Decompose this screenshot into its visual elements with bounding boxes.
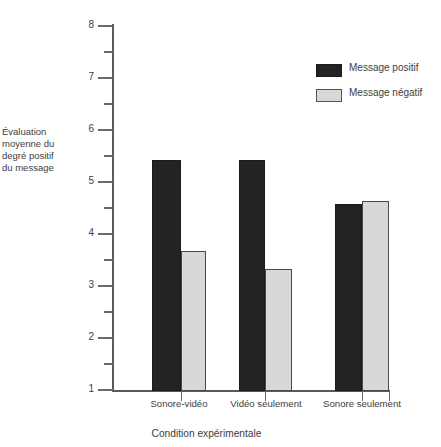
category-label: Sonore seulement bbox=[302, 398, 422, 409]
bar-message-négatif bbox=[265, 269, 292, 391]
bar-message-positif bbox=[152, 160, 181, 391]
legend-label: Message négatif bbox=[349, 87, 422, 98]
legend-swatch-pos bbox=[316, 64, 342, 77]
bar-message-négatif bbox=[181, 251, 206, 391]
x-axis-title: Condition expérimentale bbox=[0, 428, 441, 439]
chart-legend: Message positifMessage négatif bbox=[316, 62, 441, 110]
bar-message-négatif bbox=[362, 201, 389, 391]
x-axis-category-labels: Sonore-vidéoVidéo seulementSonore seulem… bbox=[0, 398, 441, 414]
x-axis-title-text: Condition expérimentale bbox=[152, 428, 262, 439]
bar-message-positif bbox=[239, 160, 265, 391]
legend-swatch-neg bbox=[316, 89, 342, 102]
bar-chart-figure: Évaluation moyenne du degré positif du m… bbox=[0, 0, 441, 447]
bar-series-container bbox=[0, 0, 441, 391]
bar-message-positif bbox=[335, 204, 362, 391]
legend-label: Message positif bbox=[349, 62, 418, 73]
